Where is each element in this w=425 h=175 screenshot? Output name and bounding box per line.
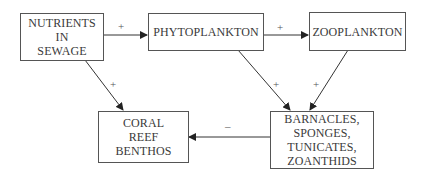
node-zooplankton: ZOOPLANKTON	[309, 12, 406, 51]
node-label-line: CORAL	[123, 116, 164, 130]
node-label-line: ZOANTHIDS	[287, 154, 357, 168]
node-label-line: BENTHOS	[115, 144, 171, 158]
node-label-line: REEF	[129, 130, 159, 144]
node-coral-reef-benthos: CORAL REEF BENTHOS	[98, 111, 189, 163]
node-label-line: IN	[56, 30, 69, 44]
edge-sign-phytoplankton-zooplankton: +	[277, 21, 283, 33]
node-label-line: BARNACLES,	[284, 112, 359, 126]
edge-sign-nutrients-phytoplankton: +	[118, 20, 124, 32]
node-label-line: ZOOPLANKTON	[312, 25, 402, 39]
node-label-line: PHYTOPLANKTON	[153, 25, 259, 39]
edge-sign-phytoplankton-barnacles: +	[273, 78, 279, 90]
edge-nutrients-coral	[85, 60, 123, 110]
edge-phytoplankton-barnacles	[238, 50, 290, 110]
node-label-line: NUTRIENTS	[28, 16, 96, 30]
node-phytoplankton: PHYTOPLANKTON	[148, 13, 264, 51]
node-label-line: SEWAGE	[37, 44, 86, 58]
edge-sign-barnacles-coral: –	[225, 120, 231, 132]
node-barnacles-sponges-tunicates-zoanthids: BARNACLES, SPONGES, TUNICATES, ZOANTHIDS	[270, 111, 374, 169]
edge-sign-zooplankton-barnacles: +	[313, 78, 319, 90]
node-label-line: SPONGES,	[293, 126, 350, 140]
edge-sign-nutrients-coral: +	[110, 78, 116, 90]
node-nutrients-in-sewage: NUTRIENTS IN SEWAGE	[20, 13, 104, 61]
node-label-line: TUNICATES,	[287, 140, 356, 154]
